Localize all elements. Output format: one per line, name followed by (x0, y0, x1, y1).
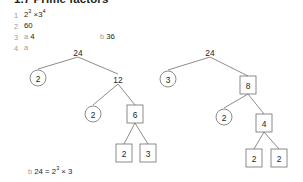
tree-node-8: 8 (240, 76, 256, 94)
page-title: 1.7 Prime factors (14, 0, 108, 5)
answer-row-1: 23 ×34 (24, 11, 46, 19)
tree-edge (264, 132, 279, 149)
factor-box-icon (240, 76, 256, 94)
part-label-4b: b (28, 167, 32, 176)
answer-2-value: 60 (24, 21, 33, 30)
tree-edge (124, 123, 135, 144)
prime-circle-icon (30, 70, 46, 86)
question-number-4: 4 (14, 44, 18, 53)
tree-node-label: 2 (252, 154, 257, 164)
tree-edge (78, 57, 118, 74)
answer-4b-prefix: 24 = 2 (34, 167, 56, 176)
tree-node-label: 6 (133, 110, 138, 120)
factor-box-icon (140, 144, 156, 162)
answer-row-3-part-b: b 36 (100, 33, 115, 41)
question-number-3: 3 (14, 33, 18, 42)
factor-tree-24-left: 242122623 (30, 48, 156, 163)
factor-box-icon (246, 149, 262, 167)
answer-3a-value: 4 (30, 32, 34, 41)
tree-node-label: 3 (146, 149, 151, 159)
tree-edge (210, 57, 248, 76)
answer-4b-value: 24 = 23 × 3 (34, 167, 72, 176)
tree-node-24: 24 (205, 48, 215, 58)
tree-node-12: 12 (113, 75, 123, 85)
factor-box-icon (127, 105, 143, 123)
factor-box-icon (116, 144, 132, 162)
tree-node-2: 2 (271, 149, 287, 167)
answer-3b-value: 36 (106, 32, 115, 41)
tree-node-label: 2 (277, 154, 282, 164)
tree-edge (118, 84, 135, 105)
answer-row-4-part-a: a (24, 44, 28, 52)
tree-node-label: 24 (73, 48, 83, 58)
tree-edge (224, 94, 248, 108)
tree-node-2: 2 (216, 109, 232, 125)
tree-node-3: 3 (140, 144, 156, 162)
answer-1-value: 23 ×34 (24, 10, 46, 19)
tree-node-label: 3 (166, 75, 171, 85)
factor-tree-24-right: 24382422 (160, 48, 287, 168)
tree-edge (248, 94, 264, 114)
tree-edge (38, 57, 78, 69)
tree-edge (93, 84, 118, 105)
factor-box-icon (256, 114, 272, 132)
part-label-4a: a (24, 43, 28, 52)
answer-1-exponent-1: 3 (28, 8, 31, 14)
tree-edge (168, 57, 210, 70)
tree-node-label: 4 (262, 119, 267, 129)
tree-node-2: 2 (116, 144, 132, 162)
tree-node-24: 24 (73, 48, 83, 58)
tree-node-3: 3 (160, 71, 176, 87)
prime-circle-icon (216, 109, 232, 125)
answer-row-2: 60 (24, 22, 33, 30)
tree-node-label: 24 (205, 48, 215, 58)
part-label-3b: b (100, 32, 104, 41)
question-number-2: 2 (14, 22, 18, 31)
prime-circle-icon (160, 71, 176, 87)
answer-4b-suffix: × 3 (59, 167, 72, 176)
tree-node-2: 2 (246, 149, 262, 167)
tree-edge (254, 132, 264, 149)
tree-node-label: 8 (246, 81, 251, 91)
question-number-1: 1 (14, 11, 18, 20)
part-label-3a: a (24, 32, 28, 41)
tree-node-label: 2 (91, 110, 96, 120)
tree-node-6: 6 (127, 105, 143, 123)
tree-node-4: 4 (256, 114, 272, 132)
tree-edge (135, 123, 148, 144)
answer-row-4-part-b: b 24 = 23 × 3 (28, 168, 72, 176)
tree-node-label: 2 (36, 74, 41, 84)
answer-row-3-part-a: a 4 (24, 33, 35, 41)
answer-1-exponent-2: 4 (42, 8, 45, 14)
tree-node-label: 2 (122, 149, 127, 159)
tree-node-2: 2 (30, 70, 46, 86)
factor-box-icon (271, 149, 287, 167)
factor-trees-diagram: 24212262324382422 (0, 0, 303, 182)
tree-node-label: 12 (113, 75, 123, 85)
tree-node-2: 2 (85, 106, 101, 122)
tree-node-label: 2 (222, 113, 227, 123)
prime-circle-icon (85, 106, 101, 122)
